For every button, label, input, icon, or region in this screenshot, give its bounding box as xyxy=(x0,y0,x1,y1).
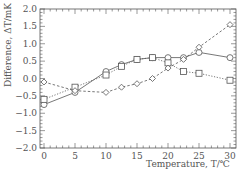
y-axis-title: Difference, ΔT/mK xyxy=(3,3,13,87)
x-axis-title: Temperature, T/℃ xyxy=(146,159,230,169)
diamond-marker xyxy=(119,84,125,90)
series-square xyxy=(41,55,233,103)
x-tick-label: 5 xyxy=(72,151,78,161)
square-marker xyxy=(196,70,202,76)
plot-border xyxy=(40,9,236,148)
x-tick-label: 10 xyxy=(100,151,112,161)
y-tick-label: 1.0 xyxy=(23,39,38,49)
diamond-marker xyxy=(227,22,233,28)
square-marker xyxy=(103,72,109,78)
y-tick-label: 0.0 xyxy=(23,74,38,84)
diamond-marker xyxy=(103,89,109,95)
y-axis: 2.01.51.00.50.0−0.5−1.0−1.5−2.0 xyxy=(15,4,236,153)
y-tick-label: 2.0 xyxy=(23,4,38,14)
square-marker xyxy=(150,55,156,61)
square-marker xyxy=(181,69,187,75)
y-tick-label: −1.5 xyxy=(15,126,37,136)
y-tick-label: −2.0 xyxy=(15,143,37,153)
diamond-marker xyxy=(196,44,202,50)
circle-marker xyxy=(227,55,233,61)
square-marker xyxy=(41,96,47,102)
line-chart: 2.01.51.00.50.0−0.5−1.0−1.5−2.0 05101520… xyxy=(0,0,240,170)
y-tick-label: 1.5 xyxy=(23,21,38,31)
diamond-marker xyxy=(134,81,140,87)
diamond-marker xyxy=(150,76,156,82)
series-layer xyxy=(41,22,233,108)
square-marker xyxy=(119,63,125,69)
plot-frame xyxy=(40,9,236,148)
x-tick-label: 15 xyxy=(131,151,143,161)
square-marker xyxy=(227,77,233,83)
square-marker xyxy=(134,56,140,62)
diamond-marker xyxy=(41,79,47,85)
y-tick-label: 0.5 xyxy=(23,56,38,66)
y-tick-label: −0.5 xyxy=(15,91,37,101)
y-tick-label: −1.0 xyxy=(15,108,37,118)
x-tick-label: 0 xyxy=(41,151,47,161)
